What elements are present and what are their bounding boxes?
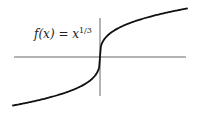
- chart: [0, 0, 198, 114]
- function-label-exponent: 1/3: [79, 26, 92, 35]
- function-label: f(x) = x1/3: [34, 26, 92, 41]
- function-label-base: f(x) = x: [34, 27, 79, 41]
